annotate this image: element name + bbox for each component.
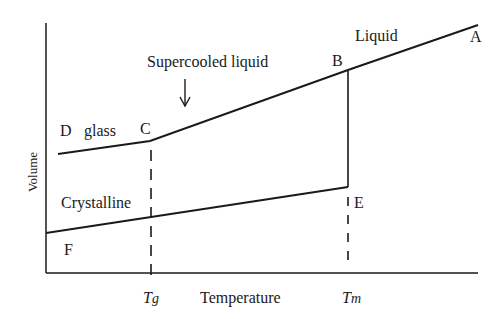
label-supercooled-liquid: Supercooled liquid (147, 53, 268, 71)
tg-tick-label: Tg (143, 289, 159, 306)
label-crystalline: Crystalline (61, 194, 131, 212)
down-arrow-icon (180, 79, 190, 106)
y-axis-label: Volume (25, 152, 40, 192)
point-e-label: E (354, 194, 364, 211)
glass-supercooled-liquid-curve (58, 25, 478, 154)
label-liquid: Liquid (355, 27, 398, 45)
point-b-label: B (332, 52, 343, 69)
volume-temperature-diagram: Liquid Supercooled liquid glass Crystall… (0, 0, 502, 319)
point-d-label: D (60, 122, 72, 139)
svg-text:Tg: Tg (143, 289, 159, 306)
point-c-label: C (140, 120, 151, 137)
x-axis-label: Temperature (200, 289, 281, 307)
tm-tick-label: Tm (342, 289, 361, 306)
point-a-label: A (470, 28, 482, 45)
point-f-label: F (64, 241, 73, 258)
svg-text:Tm: Tm (342, 289, 361, 306)
label-glass: glass (84, 122, 116, 140)
